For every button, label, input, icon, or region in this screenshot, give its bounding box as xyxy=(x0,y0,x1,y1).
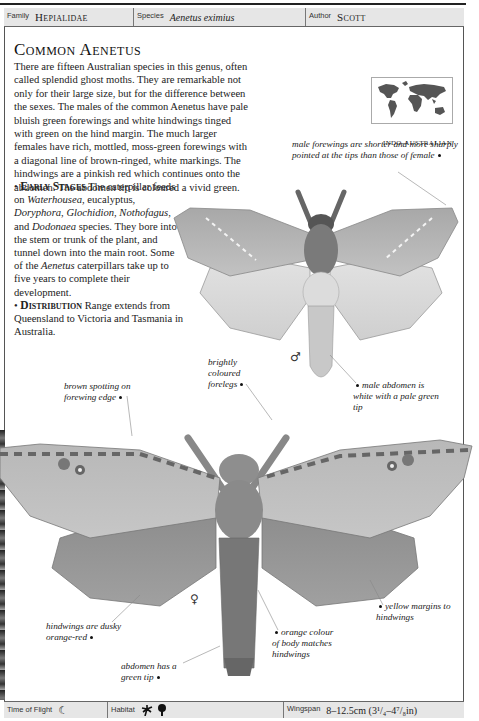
annotation-hindwings: hindwings are dusky orange-red xyxy=(46,621,124,643)
author-cell: Author Scott xyxy=(306,8,464,26)
early-stages-heading: Early Stages xyxy=(20,180,85,192)
leader-dot-icon xyxy=(119,396,122,399)
intro-paragraph: There are fifteen Australian species in … xyxy=(14,60,250,194)
palm-tree-icon xyxy=(141,704,153,716)
leader-dot-icon xyxy=(157,676,160,679)
time-of-flight-cell: Time of Flight ☾ xyxy=(4,702,108,718)
author-label: Author xyxy=(309,11,331,20)
family-label: Family xyxy=(7,11,29,20)
annotation-abdomen-tip: abdomen has a green tip xyxy=(121,661,191,683)
early-stages-text: , eucalyptus, xyxy=(82,194,135,205)
time-of-flight-label: Time of Flight xyxy=(7,705,52,714)
leader-dot-icon xyxy=(379,605,382,608)
plant-name: Glochidion xyxy=(66,207,114,218)
plant-name: Waterhousea xyxy=(27,194,82,205)
leader-dot-icon xyxy=(90,636,93,639)
early-stages-section: • Early Stages The caterpillar feeds on … xyxy=(14,180,184,299)
distribution-heading: Distribution xyxy=(20,299,82,311)
family-cell: Family Hepialidae xyxy=(4,8,134,26)
plant-name: Doryphora xyxy=(14,207,61,218)
world-map-icon xyxy=(371,77,453,124)
annotation-male-forewings: male forewings are shorter and more shar… xyxy=(292,139,462,161)
annotation-text: male forewings are shorter and more shar… xyxy=(292,139,458,160)
annotation-orange-colour: orange colour of body matches hindwings xyxy=(272,627,342,660)
top-rule xyxy=(0,3,466,5)
annotation-text: brightly coloured forelegs xyxy=(208,357,240,389)
annotation-brown-spotting: brown spotting on forewing edge xyxy=(64,381,144,403)
habitat-label: Habitat xyxy=(111,705,135,714)
side-text: • Early Stages The caterpillar feeds on … xyxy=(14,180,184,338)
species-label: Species xyxy=(137,11,164,20)
leader-dot-icon xyxy=(356,384,359,387)
wingspan-value: 8–12.5cm (3¹/₄–4⁷/₈in) xyxy=(326,705,417,716)
annotation-text: male abdomen is white with a pale green … xyxy=(353,380,439,412)
header-bar: Family Hepialidae Species Aenetus eximiu… xyxy=(4,8,464,27)
annotation-forelegs: brightly coloured forelegs xyxy=(208,357,262,390)
leader-dot-icon xyxy=(240,383,243,386)
species-cell: Species Aenetus eximius xyxy=(134,8,306,26)
author-value: Scott xyxy=(337,11,366,23)
crescent-moon-icon: ☾ xyxy=(58,704,68,717)
leader-dot-icon xyxy=(275,631,278,634)
plant-name: Dodonaea xyxy=(32,221,76,232)
wingspan-cell: Wingspan 8–12.5cm (3¹/₄–4⁷/₈in) xyxy=(284,702,464,718)
annotation-male-abdomen: male abdomen is white with a pale green … xyxy=(353,380,443,413)
page-title: Common Aenetus xyxy=(14,40,141,60)
distribution-section: • Distribution Range extends from Queens… xyxy=(14,299,184,339)
male-symbol-icon: ♂ xyxy=(290,350,301,364)
wingspan-label: Wingspan xyxy=(287,704,320,713)
family-value: Hepialidae xyxy=(35,11,88,23)
species-value: Aenetus eximius xyxy=(170,12,235,23)
leader-dot-icon xyxy=(438,154,441,157)
annotation-text: hindwings are dusky orange-red xyxy=(46,621,121,642)
female-symbol-icon: ♀ xyxy=(190,592,199,606)
habitat-cell: Habitat xyxy=(108,702,284,718)
annotation-text: orange colour of body matches hindwings xyxy=(272,627,333,659)
deciduous-tree-icon xyxy=(157,704,167,716)
footer-bar: Time of Flight ☾ Habitat Wingspan 8–12.5… xyxy=(4,701,464,718)
annotation-text: yellow margins to hindwings xyxy=(376,601,451,622)
annotation-text: abdomen has a green tip xyxy=(121,661,177,682)
female-moth-image xyxy=(0,398,479,688)
genus-name: Aenetus xyxy=(41,260,75,271)
annotation-yellow-margins: yellow margins to hindwings xyxy=(376,601,456,623)
plant-name: Nothofagus xyxy=(119,207,168,218)
